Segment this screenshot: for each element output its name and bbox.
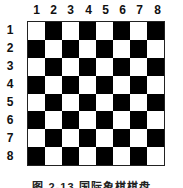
figure-caption: 图 2-13 国际象棋棋盘 [0,178,183,188]
light-square [62,94,79,112]
light-square [130,129,147,147]
row-label: 2 [3,39,17,57]
light-square [45,40,62,58]
dark-square [96,76,113,94]
row-label: 3 [3,57,17,75]
dark-square [113,129,130,147]
dark-square [79,22,96,40]
row-label: 4 [3,75,17,93]
dark-square [96,147,113,165]
light-square [79,111,96,129]
light-square [113,111,130,129]
dark-square [147,94,164,112]
column-label: 1 [28,3,45,17]
dark-square [113,58,130,76]
dark-square [28,111,45,129]
light-square [113,40,130,58]
dark-square [62,40,79,58]
column-label: 4 [80,3,97,17]
light-square [45,111,62,129]
light-square [62,22,79,40]
light-square [79,40,96,58]
dark-square [28,76,45,94]
dark-square [79,94,96,112]
light-square [79,147,96,165]
light-square [96,94,113,112]
column-label: 3 [62,3,79,17]
dark-square [147,22,164,40]
dark-square [130,147,147,165]
light-square [113,147,130,165]
dark-square [130,76,147,94]
light-square [96,58,113,76]
column-label: 2 [45,3,62,17]
column-label: 5 [97,3,114,17]
dark-square [96,40,113,58]
light-square [28,22,45,40]
dark-square [28,147,45,165]
dark-square [62,147,79,165]
light-square [147,111,164,129]
dark-square [130,111,147,129]
dark-square [147,58,164,76]
light-square [28,129,45,147]
dark-square [113,94,130,112]
dark-square [79,58,96,76]
dark-square [147,129,164,147]
light-square [79,76,96,94]
dark-square [79,129,96,147]
row-label: 8 [3,147,17,165]
light-square [28,94,45,112]
light-square [96,129,113,147]
light-square [113,76,130,94]
light-square [130,94,147,112]
dark-square [130,40,147,58]
dark-square [45,94,62,112]
dark-square [113,22,130,40]
light-square [45,147,62,165]
light-square [147,147,164,165]
dark-square [62,76,79,94]
light-square [130,58,147,76]
row-label: 1 [3,21,17,39]
column-label: 8 [149,3,166,17]
dark-square [45,22,62,40]
dark-square [45,129,62,147]
light-square [147,40,164,58]
chess-board [27,21,165,166]
column-label: 7 [131,3,148,17]
light-square [45,76,62,94]
dark-square [45,58,62,76]
light-square [96,22,113,40]
light-square [130,22,147,40]
light-square [62,129,79,147]
column-label: 6 [114,3,131,17]
row-label: 6 [3,111,17,129]
light-square [147,76,164,94]
row-label: 7 [3,129,17,147]
dark-square [28,40,45,58]
dark-square [62,111,79,129]
light-square [28,58,45,76]
light-square [62,58,79,76]
row-label: 5 [3,93,17,111]
dark-square [96,111,113,129]
